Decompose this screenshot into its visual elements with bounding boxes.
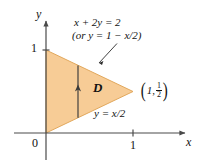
vertex-fraction-denominator: 2 [156, 90, 162, 99]
vertex-close-paren: ) [163, 82, 168, 99]
upper-boundary-equation-line1: x + 2y = 2 [74, 17, 142, 28]
region-d-shape [46, 50, 133, 133]
vertex-comma: , [152, 85, 155, 96]
region-label-d: D [93, 81, 102, 94]
x-axis-label: x [186, 136, 191, 148]
origin-label: 0 [32, 137, 38, 149]
vertex-coordinate-label: ( 1 , 1 2 ) [140, 82, 169, 100]
vertex-fraction: 1 2 [156, 82, 162, 100]
upper-boundary-equation-line2: (or y = 1 − x/2) [72, 30, 142, 41]
lower-boundary-equation: y = x/2 [94, 108, 125, 119]
figure-container: y x 1 1 0 D x + 2y = 2 (or y = 1 − x/2) … [0, 0, 198, 166]
leader-line [99, 44, 117, 64]
upper-boundary-equation: x + 2y = 2 (or y = 1 − x/2) [74, 17, 142, 41]
vertex-open-paren: ( [141, 82, 146, 99]
y-axis-tick-label-1: 1 [31, 42, 37, 54]
y-axis-label: y [36, 8, 41, 20]
vertex-fraction-numerator: 1 [156, 82, 162, 90]
x-axis-tick-label-1: 1 [130, 139, 136, 151]
